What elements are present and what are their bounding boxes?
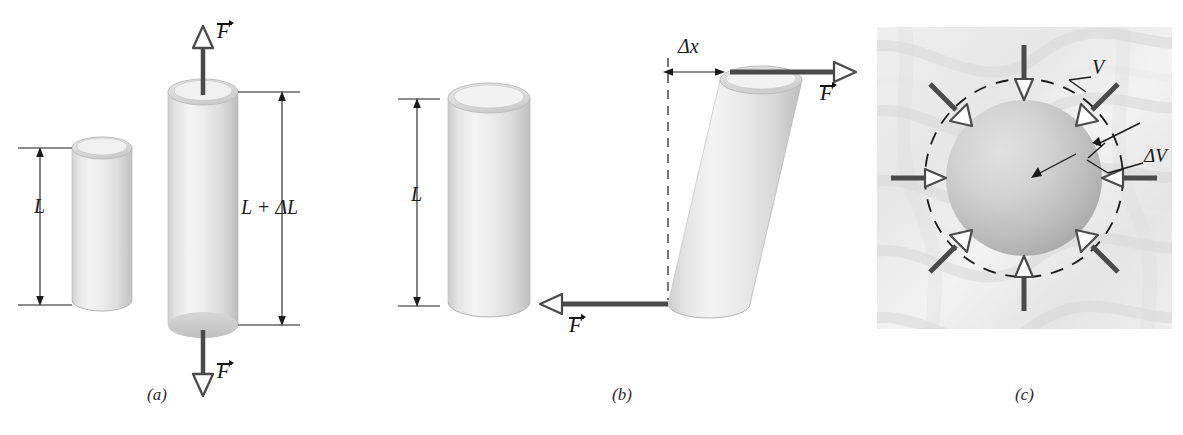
- physics-figure-stress-strain: L L + ΔL F F (a): [0, 0, 1183, 435]
- label-V: V: [1092, 56, 1104, 79]
- label-delta-x: Δx: [678, 35, 699, 58]
- panel-c-hydraulic-stress: V ΔV (c): [860, 0, 1183, 435]
- unstressed-cylinder: [72, 137, 132, 311]
- label-delta-V: ΔV: [1144, 145, 1167, 167]
- panel-c-graphics: [860, 0, 1183, 435]
- panel-a-tensile-stress: L L + ΔL F F (a): [0, 0, 390, 435]
- force-arrow-bottom-panel-b: [540, 294, 668, 314]
- label-L-panel-b: L: [411, 183, 422, 206]
- dimension-L-panel-a: [18, 147, 72, 306]
- force-label-top-panel-a: F: [216, 18, 230, 44]
- caption-panel-a: (a): [147, 385, 167, 405]
- dimension-delta-x: [663, 68, 725, 76]
- caption-panel-b: (b): [612, 385, 632, 405]
- panel-b-graphics: [390, 0, 860, 435]
- label-L-plus-delta-L: L + ΔL: [241, 196, 298, 219]
- force-label-bottom-panel-a: F: [216, 358, 230, 384]
- panel-b-shearing-stress: L Δx F F (b): [390, 0, 860, 435]
- force-label-top-panel-b: F: [819, 80, 833, 106]
- sheared-cylinder: [668, 66, 802, 318]
- label-L-panel-a: L: [34, 195, 45, 218]
- stretched-cylinder: [168, 79, 238, 338]
- caption-panel-c: (c): [1015, 385, 1034, 405]
- force-arrow-bottom-panel-a: [193, 330, 213, 396]
- panel-a-graphics: [0, 0, 390, 435]
- force-label-bottom-panel-b: F: [568, 312, 582, 338]
- unstressed-cylinder-panel-b: [448, 83, 530, 317]
